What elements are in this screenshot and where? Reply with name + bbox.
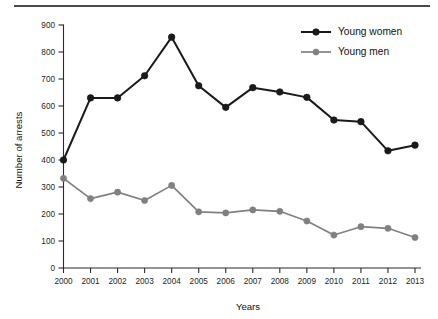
x-axis-tick-label: 2007 bbox=[244, 277, 263, 286]
data-point-marker bbox=[304, 218, 310, 224]
y-axis-title: Number of arrests bbox=[13, 111, 24, 188]
data-point-marker bbox=[249, 84, 256, 91]
data-point-marker bbox=[114, 95, 121, 102]
y-axis-tick-label: 100 bbox=[41, 237, 55, 246]
y-axis-tick-label: 700 bbox=[41, 75, 55, 84]
data-point-marker bbox=[196, 209, 202, 215]
x-axis-tick-label: 2005 bbox=[190, 277, 209, 286]
data-point-marker bbox=[87, 196, 93, 202]
x-axis-tick-label: 2000 bbox=[54, 277, 73, 286]
y-axis-tick-label: 400 bbox=[41, 156, 55, 165]
legend-swatch-marker bbox=[313, 49, 319, 55]
x-axis-tick-label: 2004 bbox=[163, 277, 182, 286]
x-axis-tick-label: 2001 bbox=[81, 277, 100, 286]
data-point-marker bbox=[385, 225, 391, 231]
x-axis-tick-label: 2010 bbox=[325, 277, 344, 286]
x-axis-tick-label: 2012 bbox=[379, 277, 398, 286]
legend-item-young-women[interactable]: Young women bbox=[301, 26, 402, 37]
axes-group: 0100200300400500600700800900200020012002… bbox=[41, 21, 424, 286]
series-young-men bbox=[60, 175, 418, 240]
legend-label: Young men bbox=[338, 46, 389, 57]
x-axis-tick-label: 2013 bbox=[406, 277, 425, 286]
data-point-marker bbox=[331, 117, 338, 124]
data-point-marker bbox=[277, 89, 284, 96]
x-axis-title: Years bbox=[236, 301, 260, 312]
x-axis-tick-label: 2002 bbox=[108, 277, 127, 286]
data-point-marker bbox=[141, 72, 148, 79]
y-axis-tick-label: 900 bbox=[41, 21, 55, 30]
data-point-marker bbox=[223, 210, 229, 216]
figure-container: 0100200300400500600700800900200020012002… bbox=[0, 0, 438, 319]
data-point-marker bbox=[168, 34, 175, 41]
data-point-marker bbox=[304, 94, 311, 101]
legend-group: Young womenYoung men bbox=[301, 26, 402, 57]
y-axis-tick-label: 500 bbox=[41, 129, 55, 138]
data-point-marker bbox=[222, 104, 229, 111]
data-point-marker bbox=[142, 197, 148, 203]
data-point-marker bbox=[412, 142, 419, 149]
data-point-marker bbox=[358, 118, 365, 125]
data-point-marker bbox=[250, 207, 256, 213]
x-axis-tick-label: 2003 bbox=[136, 277, 155, 286]
data-point-marker bbox=[331, 232, 337, 238]
data-point-marker bbox=[87, 95, 94, 102]
chart-plot-svg: 0100200300400500600700800900200020012002… bbox=[0, 0, 438, 319]
axis-lines bbox=[64, 25, 422, 269]
y-axis-tick-label: 800 bbox=[41, 48, 55, 57]
line-chart: 0100200300400500600700800900200020012002… bbox=[0, 0, 438, 319]
data-point-marker bbox=[277, 208, 283, 214]
data-point-marker bbox=[60, 175, 66, 181]
legend-swatch-marker bbox=[313, 29, 320, 36]
x-axis-tick-label: 2006 bbox=[217, 277, 236, 286]
legend-label: Young women bbox=[338, 26, 402, 37]
data-point-marker bbox=[385, 148, 392, 155]
x-axis-tick-label: 2011 bbox=[352, 277, 370, 286]
y-axis-tick-label: 200 bbox=[41, 210, 55, 219]
y-axis-tick-label: 600 bbox=[41, 102, 55, 111]
x-axis-tick-label: 2008 bbox=[271, 277, 290, 286]
legend-item-young-men[interactable]: Young men bbox=[301, 46, 389, 57]
data-point-marker bbox=[60, 157, 67, 164]
x-axis-tick-label: 2009 bbox=[298, 277, 317, 286]
y-axis-tick-label: 300 bbox=[41, 183, 55, 192]
data-point-marker bbox=[114, 189, 120, 195]
series-group bbox=[60, 34, 418, 241]
data-point-marker bbox=[412, 234, 418, 240]
y-axis-tick-label: 0 bbox=[50, 264, 55, 273]
data-point-marker bbox=[195, 82, 202, 89]
data-point-marker bbox=[358, 224, 364, 230]
data-point-marker bbox=[169, 182, 175, 188]
